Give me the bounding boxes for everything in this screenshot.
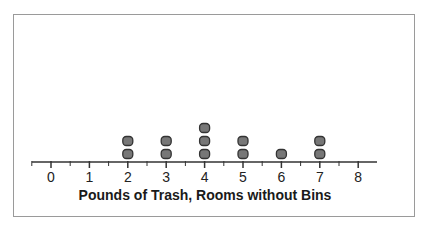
x-axis-title: Pounds of Trash, Rooms without Bins (79, 187, 332, 203)
tick-label: 3 (162, 169, 170, 185)
data-dot (315, 150, 325, 159)
tick-label: 5 (239, 169, 247, 185)
data-dot (123, 137, 133, 146)
data-dot (161, 150, 171, 159)
x-axis-tick-labels: 012345678 (47, 169, 362, 185)
data-dot (200, 150, 210, 159)
tick-label: 4 (201, 169, 209, 185)
tick-label: 0 (47, 169, 55, 185)
data-dot (200, 124, 210, 133)
data-dot (315, 137, 325, 146)
data-dots (123, 124, 325, 159)
tick-label: 6 (278, 169, 286, 185)
data-dot (238, 137, 248, 146)
tick-label: 1 (86, 169, 94, 185)
data-dot (276, 150, 286, 159)
data-dot (200, 137, 210, 146)
data-dot (161, 137, 171, 146)
data-dot (238, 150, 248, 159)
data-dot (123, 150, 133, 159)
dot-plot: 012345678 Pounds of Trash, Rooms without… (0, 0, 428, 229)
tick-label: 8 (354, 169, 362, 185)
tick-label: 7 (316, 169, 324, 185)
tick-label: 2 (124, 169, 132, 185)
